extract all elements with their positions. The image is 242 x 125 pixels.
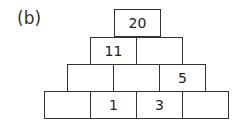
pyramid-cell-r2-c1 — [113, 64, 160, 92]
pyramid-cell-r0-c0: 20 — [114, 9, 161, 37]
pyramid-cell-r3-c3 — [182, 91, 229, 119]
pyramid-cell-r3-c2: 3 — [136, 91, 183, 119]
pyramid-cell-r1-c1 — [136, 37, 183, 65]
pyramid-cell-r1-c0: 11 — [90, 37, 137, 65]
figure-label: (b) — [17, 8, 41, 28]
pyramid-cell-r2-c2: 5 — [159, 64, 206, 92]
pyramid-cell-r2-c0 — [67, 64, 114, 92]
pyramid-cell-r3-c0 — [44, 91, 91, 119]
pyramid-cell-r3-c1: 1 — [90, 91, 137, 119]
